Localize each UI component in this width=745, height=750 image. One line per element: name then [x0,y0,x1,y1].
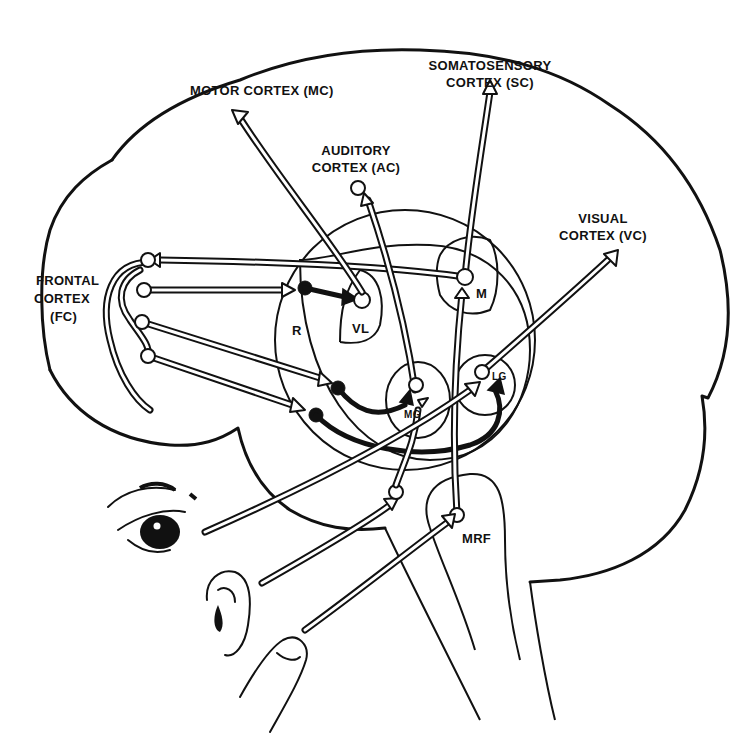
somatosensory-cortex-label-2: CORTEX (SC) [446,75,534,90]
ear-icon [207,571,250,655]
mrf-label: MRF [462,531,491,546]
vl-nucleus-label: VL [352,321,369,336]
visual-cortex-label-2: CORTEX (VC) [559,228,647,243]
brain-outline [112,50,728,582]
frontal-cortex-label-2: CORTEX [34,291,90,306]
neck-right [530,582,555,720]
eye-icon [108,484,196,552]
somatosensory-cortex-label-1: SOMATOSENSORY [429,58,552,73]
auditory-cortex-label-2: CORTEX (AC) [312,160,401,175]
m-nucleus-label: M [476,286,487,301]
reticular-nucleus-label: R [292,323,302,338]
thalamocortical-diagram: MOTOR CORTEX (MC) SOMATOSENSORY CORTEX (… [0,0,745,750]
lg-nucleus [455,355,515,415]
frontal-cortex-label-3: (FC) [50,309,77,324]
finger-icon [240,638,307,732]
motor-cortex-label: MOTOR CORTEX (MC) [190,83,334,98]
lg-nucleus-label: LG [492,371,507,382]
auditory-cortex-label-1: AUDITORY [321,143,391,158]
frontal-cortex-label-1: FRONTAL [36,273,99,288]
brain-lower-outline [42,160,112,370]
mg-nucleus-label: MG [404,409,421,420]
visual-cortex-label-1: VISUAL [578,211,627,226]
brainstem-outline [426,474,520,660]
